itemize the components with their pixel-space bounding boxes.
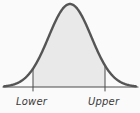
- upper-bound-label: Upper: [88, 96, 120, 107]
- bell-curve-figure: Lower Upper: [0, 0, 140, 113]
- bell-curve-canvas: Lower Upper: [0, 0, 140, 113]
- lower-bound-label: Lower: [16, 96, 48, 107]
